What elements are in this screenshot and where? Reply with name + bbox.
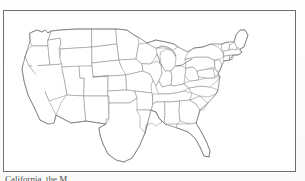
state-arizona [56,95,86,123]
state-idaho [48,38,62,65]
state-florida [177,123,210,157]
figure-root: California, the M [0,0,305,181]
state-arkansas [135,91,153,110]
state-new-jersey [215,60,222,72]
state-wyoming [60,47,92,67]
state-north-carolina [189,86,218,97]
state-missouri [126,71,153,93]
map-frame [3,10,296,172]
state-minnesota [116,29,139,60]
state-alabama [164,101,180,124]
state-ohio [171,66,186,86]
figure-caption: California, the M [5,174,295,181]
state-new-mexico [84,96,109,124]
state-south-dakota [92,44,119,63]
us-map [4,11,297,173]
